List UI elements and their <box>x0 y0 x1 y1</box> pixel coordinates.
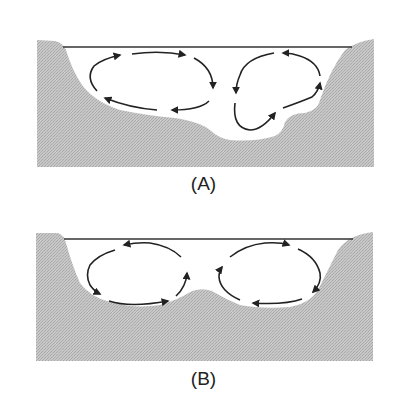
panel-a: (A) <box>0 0 397 200</box>
circulation-cell-right <box>219 243 320 304</box>
panel-label-b: (B) <box>5 368 397 390</box>
channel-bed <box>36 232 373 361</box>
panel-label-a: (A) <box>5 173 397 195</box>
circulation-cell-left <box>90 52 213 110</box>
channel-cross-section-a <box>0 0 397 200</box>
panel-b: (B) <box>0 195 397 406</box>
circulation-cell-left <box>88 243 188 305</box>
